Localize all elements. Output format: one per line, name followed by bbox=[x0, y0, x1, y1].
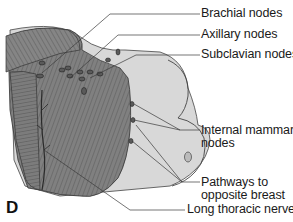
label-long-thoracic-nerve: Long thoracic nerve bbox=[187, 203, 293, 216]
label-internal-mammary-nodes: Internal mammary nodes bbox=[201, 124, 293, 150]
label-brachial-nodes: Brachial nodes bbox=[201, 7, 282, 20]
nipple bbox=[185, 152, 192, 162]
label-axillary-nodes: Axillary nodes bbox=[201, 28, 277, 41]
panel-letter: D bbox=[6, 198, 18, 218]
label-pathways-opposite-breast: Pathways to opposite breast bbox=[201, 176, 285, 202]
label-subclavian-nodes: Subclavian nodes bbox=[201, 48, 293, 61]
anatomy-illustration: Brachial nodes Axillary nodes Subclavian… bbox=[0, 0, 293, 222]
